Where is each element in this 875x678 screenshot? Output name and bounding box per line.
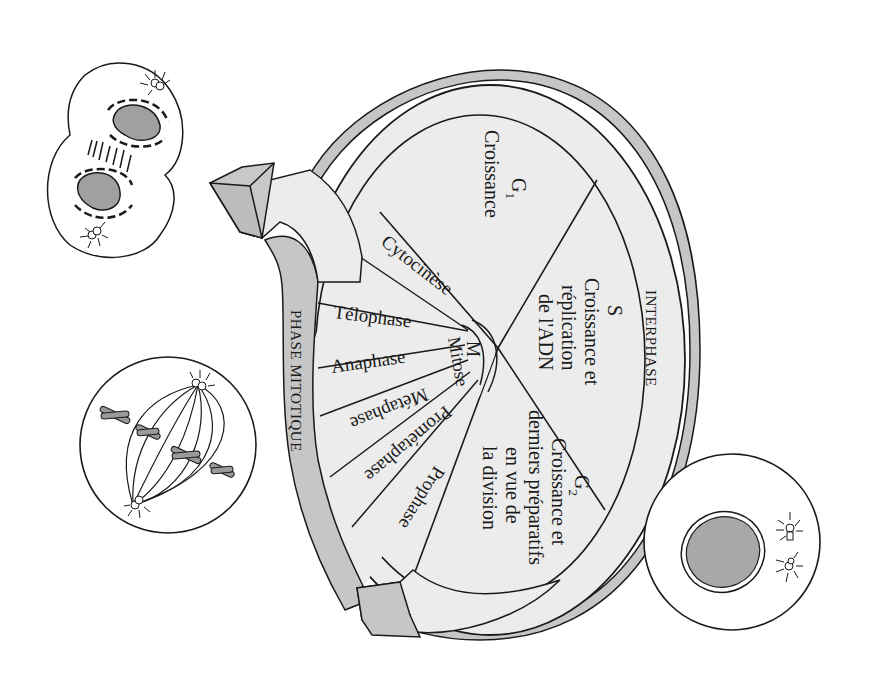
g2-desc-line-3: en vue de	[502, 447, 524, 524]
g2-desc-line-2: derniers préparatifs	[524, 410, 547, 565]
g2-desc-line-4: la division	[479, 446, 501, 530]
cell-interphase	[644, 454, 820, 630]
interphase-label: INTERPHASE	[643, 290, 659, 387]
cell-telophase	[48, 63, 183, 257]
g2-desc-line-1: Croissance et	[548, 438, 570, 546]
s-name: S	[604, 305, 626, 316]
cell-metaphase	[80, 357, 256, 533]
cell-cycle-diagram: INTERPHASE PHASE MITOTIQUE G1 Croissance…	[0, 0, 875, 678]
mitotic-phase-label: PHASE MITOTIQUE	[288, 310, 304, 452]
s-desc-line-1: Croissance et	[581, 278, 603, 386]
g1-description: Croissance	[481, 130, 503, 218]
s-desc-line-3: de l'ADN	[535, 294, 557, 370]
s-desc-line-2: réplication	[557, 285, 580, 371]
